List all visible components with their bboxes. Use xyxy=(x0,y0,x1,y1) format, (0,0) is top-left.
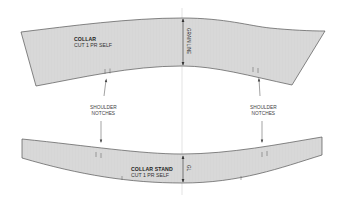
arrow-to-stand-left-notch xyxy=(100,121,102,143)
left-notch-label-line2: NOTCHES xyxy=(90,111,117,117)
arrow-to-collar-left-notch xyxy=(104,79,107,97)
collar-stand-grain-label: GL xyxy=(186,165,191,171)
pattern-diagram xyxy=(0,0,364,197)
collar-piece xyxy=(21,18,325,86)
left-notch-label: SHOULDER NOTCHES xyxy=(90,105,117,117)
collar-grain-label: GRAIN LINE xyxy=(186,28,191,54)
collar-stand-piece xyxy=(22,137,322,183)
arrow-to-collar-right-notch xyxy=(258,78,260,96)
right-notch-label-line2: NOTCHES xyxy=(250,111,277,117)
collar-stand-subtitle: CUT 1 PR SELF xyxy=(131,173,169,179)
right-notch-label: SHOULDER NOTCHES xyxy=(250,105,277,117)
collar-subtitle: CUT 1 PR SELF xyxy=(74,43,112,49)
arrow-to-stand-right-notch xyxy=(261,121,263,143)
